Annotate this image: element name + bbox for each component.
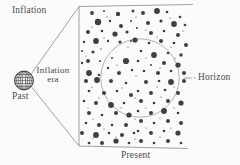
galaxy-dot: [137, 130, 140, 133]
galaxy-dot: [143, 70, 146, 73]
galaxy-dot: [149, 91, 153, 95]
galaxy-dot: [164, 89, 167, 92]
galaxy-dot: [182, 30, 183, 31]
galaxy-dot: [130, 20, 132, 22]
galaxy-dot: [149, 131, 153, 135]
galaxy-dot: [158, 80, 161, 83]
galaxy-dot: [184, 24, 187, 27]
galaxy-dot: [92, 118, 93, 119]
galaxy-dot: [146, 21, 150, 25]
galaxy-dot: [103, 37, 104, 38]
galaxy-dot: [137, 60, 140, 63]
galaxy-dot: [84, 79, 88, 83]
galaxy-dot: [150, 64, 152, 66]
galaxy-dot: [149, 111, 153, 115]
galaxy-dot: [116, 64, 117, 65]
galaxy-dot: [135, 75, 136, 76]
galaxy-dot: [111, 124, 114, 127]
galaxy-dot: [102, 91, 106, 95]
galaxy-dot: [88, 90, 91, 93]
galaxy-dot: [118, 40, 121, 43]
galaxy-dot: [156, 36, 157, 37]
galaxy-dot: [85, 122, 88, 125]
galaxy-dot: [112, 31, 117, 36]
galaxy-dot: [108, 102, 114, 108]
galaxy-dot: [86, 59, 90, 63]
galaxy-dot: [168, 79, 174, 85]
galaxy-dot: [98, 74, 100, 76]
galaxy-dot: [154, 8, 160, 14]
galaxy-dot: [173, 42, 176, 45]
galaxy-dot: [107, 40, 109, 42]
galaxy-dot: [103, 128, 104, 129]
galaxy-dot: [140, 50, 143, 53]
galaxy-dot: [170, 46, 171, 47]
galaxy-dot: [130, 40, 132, 42]
label-horizon: Horizon: [198, 72, 231, 82]
galaxy-dot: [134, 97, 135, 98]
galaxy-dot: [97, 123, 101, 127]
galaxy-dot: [109, 20, 111, 22]
galaxy-dot: [173, 86, 174, 87]
galaxy-dot: [103, 10, 105, 12]
galaxy-dot: [159, 67, 160, 68]
galaxy-dot: [156, 86, 157, 87]
galaxy-dot: [162, 61, 166, 65]
galaxy-dot: [145, 127, 146, 128]
galaxy-dot: [177, 112, 180, 115]
galaxy-dot: [116, 90, 119, 93]
galaxy-dot: [121, 87, 122, 88]
galaxy-dot: [173, 107, 174, 108]
galaxy-dot: [132, 37, 137, 42]
galaxy-dot: [160, 96, 161, 97]
galaxy-dot: [178, 100, 183, 105]
galaxy-dot: [184, 43, 188, 47]
galaxy-dot: [117, 71, 121, 75]
galaxy-dot: [94, 101, 98, 105]
galaxy-dot: [167, 52, 170, 55]
galaxy-dot: [134, 118, 135, 119]
galaxy-dot: [171, 21, 177, 27]
galaxy-dot: [145, 29, 146, 30]
galaxy-dot: [174, 57, 175, 58]
galaxy-dot: [159, 136, 160, 137]
expansion-upper-line: [32, 7, 80, 74]
inflation-diagram: Inflation Inflation era Past Horizon Pre…: [0, 0, 240, 165]
galaxy-dot: [124, 123, 128, 127]
galaxy-dot: [153, 122, 156, 125]
galaxy-dot: [179, 121, 183, 125]
label-past: Past: [12, 91, 29, 101]
galaxy-dot: [149, 31, 153, 35]
galaxy-dot: [101, 114, 104, 117]
galaxy-dot: [137, 90, 140, 93]
galaxy-dot: [151, 52, 157, 58]
galaxy-dot: [175, 62, 180, 67]
galaxy-dot: [88, 142, 91, 145]
galaxy-dot: [98, 97, 99, 98]
galaxy-dot: [94, 77, 100, 83]
galaxy-dot: [91, 86, 92, 87]
galaxy-dot: [120, 107, 121, 108]
galaxy-dot: [144, 80, 148, 84]
galaxy-dot: [126, 112, 131, 117]
galaxy-dot: [101, 30, 104, 33]
galaxy-dot: [99, 60, 101, 62]
galaxy-dot: [159, 19, 162, 22]
galaxy-dot: [180, 142, 183, 145]
galaxy-dot: [125, 82, 128, 85]
galaxy-dot: [119, 24, 123, 28]
galaxy-dot: [83, 41, 85, 43]
galaxy-dot: [166, 139, 170, 143]
galaxy-dot: [123, 58, 129, 64]
galaxy-dot: [145, 57, 146, 58]
galaxy-dot: [125, 30, 128, 33]
galaxy-dot: [156, 71, 160, 75]
galaxy-dot: [115, 136, 116, 137]
galaxy-dot: [108, 132, 111, 135]
galaxy-dot: [153, 102, 156, 105]
galaxy-dot: [163, 30, 166, 33]
galaxy-dot: [81, 50, 83, 52]
galaxy-dot: [92, 137, 93, 138]
galaxy-dot: [86, 30, 90, 34]
galaxy-dot: [137, 110, 140, 113]
